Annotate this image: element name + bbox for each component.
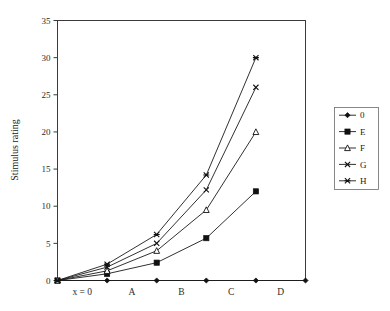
line-chart-svg: 05101520253035 Stimulus rating x = 0ABCD… (0, 0, 390, 311)
legend-box (335, 108, 379, 190)
chart-legend: 0EFGH (335, 108, 379, 190)
y-tick-label: 5 (46, 239, 51, 249)
y-tick-label: 35 (42, 16, 52, 26)
data-point-E (253, 189, 258, 194)
chart-figure: 05101520253035 Stimulus rating x = 0ABCD… (0, 0, 390, 311)
y-tick-label: 30 (42, 53, 52, 63)
x-category-label: C (228, 287, 234, 297)
legend-label-F: F (360, 143, 365, 153)
data-point-E (204, 236, 209, 241)
x-category-label: D (277, 287, 284, 297)
y-tick-label: 15 (42, 164, 52, 174)
legend-label-G: G (360, 160, 367, 170)
x-category-label: B (178, 287, 184, 297)
x-category-label: x = 0 (72, 287, 92, 297)
legend-marker-E (345, 129, 350, 134)
legend-label-E: E (360, 127, 366, 137)
chart-background (0, 0, 390, 311)
legend-label-H: H (360, 176, 367, 186)
y-tick-label: 20 (42, 127, 52, 137)
y-axis-title: Stimulus rating (9, 119, 20, 180)
y-tick-label: 0 (46, 276, 51, 286)
x-category-label: A (128, 287, 135, 297)
legend-label-0: 0 (360, 110, 365, 120)
y-tick-label: 25 (42, 90, 52, 100)
data-point-E (154, 260, 159, 265)
y-tick-label: 10 (42, 201, 52, 211)
